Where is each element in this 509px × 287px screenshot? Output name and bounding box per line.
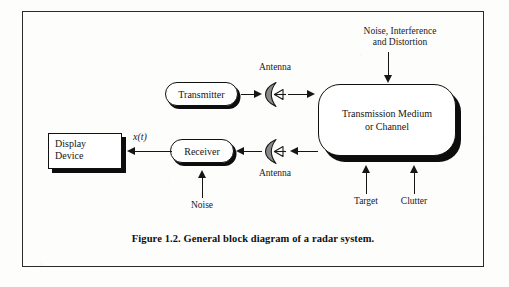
receiver-to-display-arrowhead [127, 147, 135, 155]
block-receiver-label: Receiver [184, 146, 220, 157]
noise-to-receiver-line [202, 178, 203, 198]
antenna-rx-label-text: Antenna [259, 168, 291, 178]
antenna-to-medium-arrowhead [307, 90, 315, 98]
signal-xt-label-text: x(t) [133, 131, 147, 142]
antenna-tx-label-text: Antenna [259, 62, 291, 72]
noise-rx-label-text: Noise [191, 200, 213, 210]
block-transmitter-label: Transmitter [178, 89, 224, 100]
clutter-to-medium-line [414, 172, 415, 194]
figure-caption: Figure 1.2. General block diagram of a r… [30, 233, 476, 244]
clutter-label: Clutter [384, 196, 444, 207]
target-to-medium-arrowhead [362, 165, 370, 173]
block-display-line2: Device [55, 150, 121, 162]
block-display-line1: Display [55, 138, 121, 150]
antenna-tx-label: Antenna [240, 62, 310, 73]
receiver-to-display-line [130, 151, 172, 152]
medium-to-antenna-arrowhead [290, 147, 298, 155]
block-display-device[interactable]: Display Device [48, 133, 122, 169]
signal-xt-label: x(t) [133, 131, 147, 142]
parabolic-antenna-icon [262, 138, 288, 165]
block-transmitter[interactable]: Transmitter [165, 82, 238, 106]
target-to-medium-line [366, 172, 367, 194]
block-medium-line2: or Channel [342, 120, 432, 134]
block-medium-line1: Transmission Medium [342, 107, 432, 121]
transmitter-to-antenna-arrowhead [254, 90, 262, 98]
noise-interference-line1: Noise, Interference [330, 26, 470, 37]
figure-canvas: Noise, Interference and Distortion Trans… [0, 0, 509, 287]
block-transmission-medium[interactable]: Transmission Medium or Channel [318, 84, 456, 156]
noise-interference-label: Noise, Interference and Distortion [330, 26, 470, 47]
block-receiver[interactable]: Receiver [170, 139, 234, 163]
noise-to-receiver-arrowhead [198, 170, 206, 178]
clutter-to-medium-arrowhead [410, 165, 418, 173]
noise-to-medium-line [388, 52, 389, 76]
target-label-text: Target [354, 196, 378, 206]
noise-to-medium-arrowhead [384, 75, 392, 83]
clutter-label-text: Clutter [401, 196, 427, 206]
noise-rx-label: Noise [172, 200, 232, 211]
parabolic-antenna-icon [262, 81, 288, 108]
antenna-rx-label: Antenna [240, 168, 310, 179]
antenna-to-receiver-arrowhead [236, 147, 244, 155]
noise-interference-line2: and Distortion [330, 37, 470, 48]
